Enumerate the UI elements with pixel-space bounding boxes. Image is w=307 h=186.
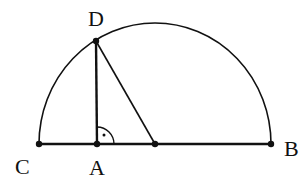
right-angle-dot: [103, 134, 106, 137]
point-c: [36, 141, 42, 147]
label-a: A: [89, 155, 105, 180]
point-a: [94, 141, 100, 147]
label-d: D: [88, 6, 104, 31]
right-angle-mark: [97, 127, 114, 144]
segment-ad: [96, 41, 97, 144]
label-b: B: [284, 136, 299, 161]
point-d: [93, 38, 99, 44]
semicircle-arc: [39, 23, 271, 144]
point-o: [152, 141, 158, 147]
label-c: C: [15, 154, 30, 179]
point-b: [268, 141, 274, 147]
geometry-diagram: D C A B: [0, 0, 307, 186]
